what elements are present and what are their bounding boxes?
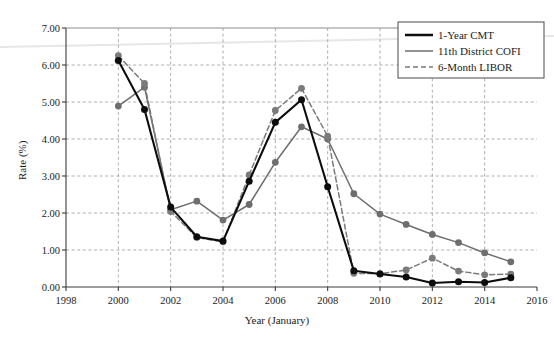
data-point bbox=[377, 211, 384, 218]
y-tick-label: 3.00 bbox=[20, 171, 60, 182]
y-tick-label: 5.00 bbox=[20, 97, 60, 108]
data-point bbox=[377, 271, 384, 278]
legend-label-11th-district-cofi: 11th District COFI bbox=[438, 45, 521, 57]
x-tick-label: 1998 bbox=[56, 295, 77, 306]
x-tick-label: 2000 bbox=[108, 295, 129, 306]
data-point bbox=[141, 80, 148, 87]
data-point bbox=[272, 159, 279, 166]
data-point bbox=[481, 250, 488, 257]
data-point bbox=[193, 233, 200, 240]
data-point bbox=[429, 255, 436, 262]
data-point bbox=[429, 231, 436, 238]
data-point bbox=[403, 267, 410, 274]
data-point bbox=[403, 221, 410, 228]
data-point bbox=[193, 198, 200, 205]
data-point bbox=[115, 57, 122, 64]
data-point bbox=[455, 278, 462, 285]
x-axis-title: Year (January) bbox=[0, 314, 554, 326]
data-point bbox=[429, 279, 436, 286]
data-point bbox=[141, 106, 148, 113]
x-tick-label: 2008 bbox=[317, 295, 338, 306]
series-line-6-month-libor bbox=[118, 56, 511, 275]
data-point bbox=[507, 274, 514, 281]
x-tick-label: 2002 bbox=[160, 295, 181, 306]
data-point bbox=[115, 103, 122, 110]
data-point bbox=[272, 107, 279, 114]
chart-figure: Rate (%) Year (January) 0.001.002.003.00… bbox=[0, 0, 554, 342]
data-series-layer bbox=[115, 52, 514, 286]
legend-label-1-year-cmt: 1-Year CMT bbox=[438, 29, 494, 41]
x-tick-label: 2016 bbox=[527, 295, 548, 306]
y-tick-label: 0.00 bbox=[20, 282, 60, 293]
data-point bbox=[220, 238, 227, 245]
legend-label-6-month-libor: 6-Month LIBOR bbox=[438, 61, 512, 73]
data-point bbox=[403, 274, 410, 281]
data-point bbox=[350, 267, 357, 274]
data-point bbox=[246, 178, 253, 185]
data-point bbox=[455, 239, 462, 246]
x-tick-label: 2014 bbox=[474, 295, 495, 306]
series-line-1-year-cmt bbox=[118, 61, 511, 283]
data-point bbox=[298, 96, 305, 103]
data-point bbox=[167, 204, 174, 211]
data-point bbox=[220, 217, 227, 224]
data-point bbox=[455, 268, 462, 275]
y-tick-label: 1.00 bbox=[20, 245, 60, 256]
x-tick-label: 2012 bbox=[422, 295, 443, 306]
data-point bbox=[481, 271, 488, 278]
data-point bbox=[246, 201, 253, 208]
y-tick-label: 2.00 bbox=[20, 208, 60, 219]
data-point bbox=[298, 85, 305, 92]
x-tick-label: 2006 bbox=[265, 295, 286, 306]
x-tick-label: 2010 bbox=[370, 295, 391, 306]
y-tick-label: 7.00 bbox=[20, 23, 60, 34]
data-point bbox=[507, 258, 514, 265]
y-tick-label: 4.00 bbox=[20, 134, 60, 145]
data-point bbox=[324, 133, 331, 140]
y-tick-label: 6.00 bbox=[20, 60, 60, 71]
data-point bbox=[272, 119, 279, 126]
data-point bbox=[324, 183, 331, 190]
data-point bbox=[481, 279, 488, 286]
data-point bbox=[350, 190, 357, 197]
x-tick-label: 2004 bbox=[213, 295, 234, 306]
data-point bbox=[298, 123, 305, 130]
